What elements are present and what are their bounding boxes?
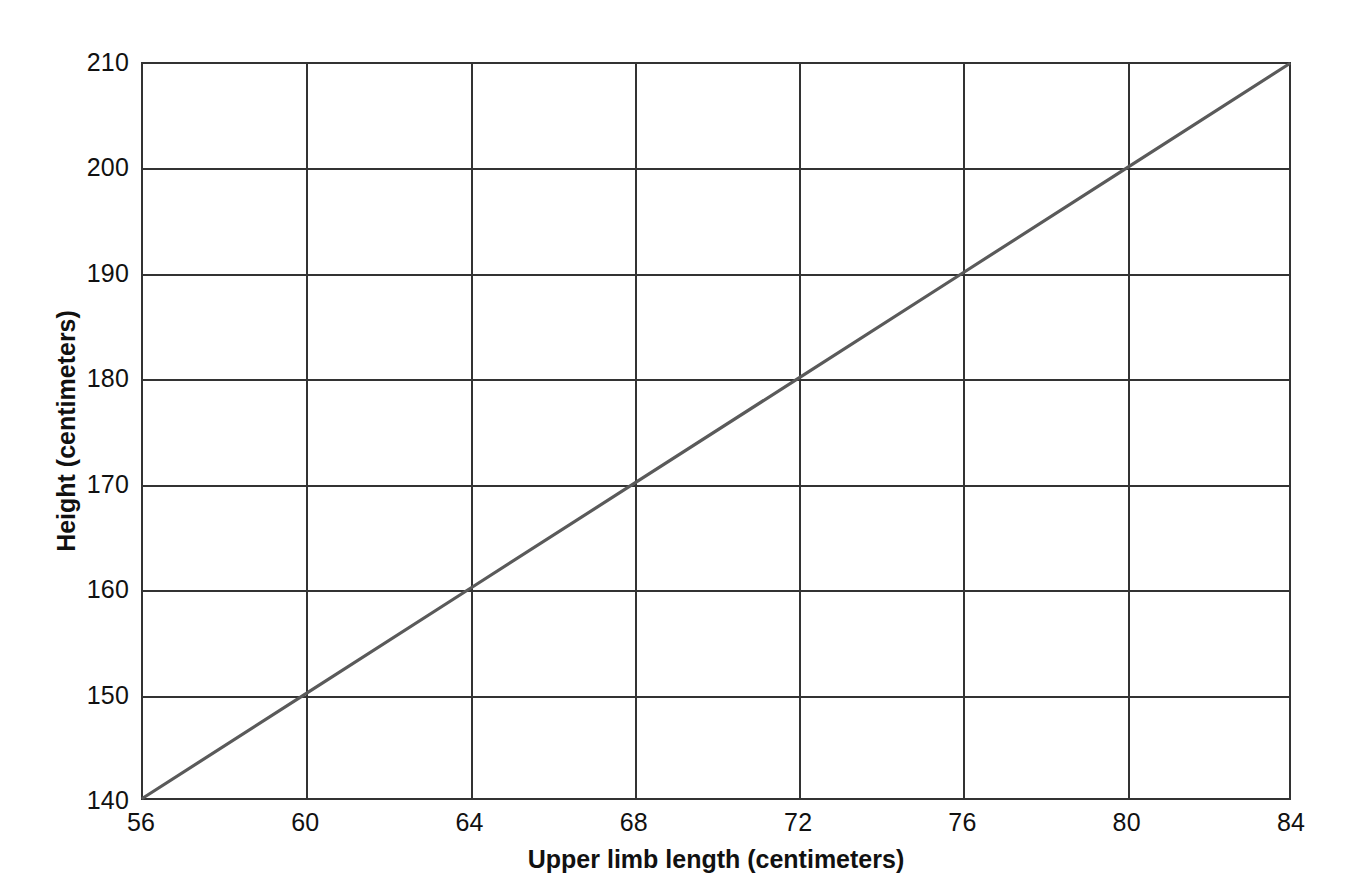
data-line-series bbox=[143, 64, 1289, 798]
y-tick-label: 210 bbox=[87, 48, 129, 77]
x-tick-label: 84 bbox=[1277, 808, 1305, 837]
data-line-layer bbox=[143, 64, 1289, 798]
x-tick-label: 60 bbox=[291, 808, 319, 837]
y-tick-label: 180 bbox=[87, 364, 129, 393]
y-tick-label: 150 bbox=[87, 680, 129, 709]
x-tick-label: 68 bbox=[620, 808, 648, 837]
x-axis-title: Upper limb length (centimeters) bbox=[141, 845, 1291, 874]
y-tick-label: 190 bbox=[87, 258, 129, 287]
y-tick-label: 140 bbox=[87, 786, 129, 815]
y-tick-label: 170 bbox=[87, 469, 129, 498]
y-tick-label: 160 bbox=[87, 575, 129, 604]
x-tick-label: 64 bbox=[455, 808, 483, 837]
x-tick-label: 56 bbox=[127, 808, 155, 837]
x-tick-label: 76 bbox=[948, 808, 976, 837]
chart-figure: 5660646872768084 14015016017018019020021… bbox=[0, 0, 1349, 894]
y-axis-title: Height (centimeters) bbox=[52, 62, 81, 800]
plot-area bbox=[141, 62, 1291, 800]
x-tick-label: 72 bbox=[784, 808, 812, 837]
x-tick-label: 80 bbox=[1113, 808, 1141, 837]
y-tick-label: 200 bbox=[87, 153, 129, 182]
